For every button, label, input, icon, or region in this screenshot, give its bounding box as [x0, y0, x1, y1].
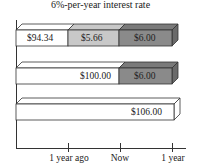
axis-tick-label: 1 year [161, 153, 184, 163]
segment-label: $5.66 [81, 33, 102, 43]
segment-label: $106.00 [131, 107, 162, 117]
segment-label: $6.00 [134, 33, 155, 43]
segment-label: $94.34 [27, 33, 53, 43]
segment-label: $100.00 [80, 71, 111, 81]
bar-diagram [0, 0, 201, 165]
axis-tick-label: 1 year ago [49, 153, 89, 163]
segment-label: $6.00 [134, 71, 155, 81]
axis-tick-label: Now [111, 153, 129, 163]
